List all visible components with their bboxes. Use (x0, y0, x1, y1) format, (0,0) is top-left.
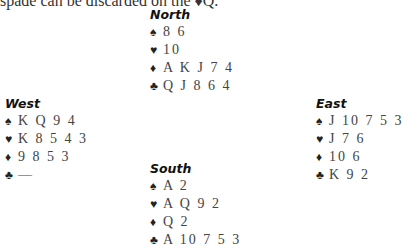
spade-icon: ♠ (150, 177, 163, 195)
club-icon: ♣ (150, 231, 163, 248)
heart-icon: ♥ (150, 195, 163, 213)
hearts-line: ♥J 7 6 (316, 130, 403, 148)
club-icon: ♣ (150, 77, 163, 95)
clubs-cards: — (18, 167, 34, 182)
diamond-icon: ♦ (5, 148, 18, 166)
diamonds-line: ♦Q 2 (150, 213, 241, 231)
clubs-line: ♣Q J 8 6 4 (150, 77, 234, 95)
spades-line: ♠K Q 9 4 (5, 112, 88, 130)
spades-cards: K Q 9 4 (18, 113, 77, 128)
spades-line: ♠8 6 (150, 23, 234, 41)
diamond-icon: ♦ (150, 213, 163, 231)
north-hand: North ♠8 6 ♥10 ♦A K J 7 4 ♣Q J 8 6 4 (150, 6, 234, 95)
hand-title: South (150, 160, 241, 177)
clubs-cards: K 9 2 (329, 167, 370, 182)
spade-icon: ♠ (5, 112, 18, 130)
diamonds-cards: 10 6 (329, 149, 362, 164)
spade-icon: ♠ (316, 112, 329, 130)
hearts-cards: J 7 6 (329, 131, 365, 146)
clubs-line: ♣A 10 7 5 3 (150, 231, 241, 248)
diamond-icon: ♦ (316, 148, 329, 166)
hearts-cards: 10 (163, 42, 181, 57)
club-icon: ♣ (316, 166, 329, 184)
spade-icon: ♠ (150, 23, 163, 41)
hearts-line: ♥10 (150, 41, 234, 59)
spades-cards: A 2 (163, 178, 189, 193)
heart-icon: ♥ (150, 41, 163, 59)
clubs-cards: Q J 8 6 4 (163, 78, 232, 93)
club-icon: ♣ (5, 166, 18, 184)
hearts-line: ♥A Q 9 2 (150, 195, 241, 213)
diamond-icon: ♦ (150, 59, 163, 77)
diamonds-cards: A K J 7 4 (163, 60, 234, 75)
diamonds-cards: 9 8 5 3 (18, 149, 71, 164)
spades-cards: J 10 7 5 3 (329, 113, 403, 128)
hand-title: West (5, 95, 88, 112)
hearts-cards: K 8 5 4 3 (18, 131, 88, 146)
clubs-line: ♣K 9 2 (316, 166, 403, 184)
east-hand: East ♠J 10 7 5 3 ♥J 7 6 ♦10 6 ♣K 9 2 (316, 95, 403, 184)
spades-line: ♠A 2 (150, 177, 241, 195)
hand-title: East (316, 95, 403, 112)
spades-line: ♠J 10 7 5 3 (316, 112, 403, 130)
diamonds-line: ♦9 8 5 3 (5, 148, 88, 166)
south-hand: South ♠A 2 ♥A Q 9 2 ♦Q 2 ♣A 10 7 5 3 (150, 160, 241, 248)
spades-cards: 8 6 (163, 24, 187, 39)
hand-title: North (150, 6, 234, 23)
hearts-cards: A Q 9 2 (163, 196, 221, 211)
heart-icon: ♥ (5, 130, 18, 148)
diamonds-cards: Q 2 (163, 214, 190, 229)
diamonds-line: ♦A K J 7 4 (150, 59, 234, 77)
diamonds-line: ♦10 6 (316, 148, 403, 166)
heart-icon: ♥ (316, 130, 329, 148)
clubs-cards: A 10 7 5 3 (163, 232, 241, 247)
clubs-line: ♣— (5, 166, 88, 184)
hearts-line: ♥K 8 5 4 3 (5, 130, 88, 148)
west-hand: West ♠K Q 9 4 ♥K 8 5 4 3 ♦9 8 5 3 ♣— (5, 95, 88, 184)
